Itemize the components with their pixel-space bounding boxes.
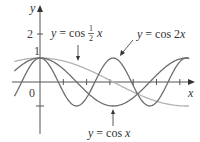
x-axis-label: x <box>187 86 194 100</box>
fraction-denominator: 2 <box>89 34 93 43</box>
annotation-cos-2x-text: y = cos 2x <box>136 27 186 41</box>
origin-label: 0 <box>29 86 35 100</box>
annotation-var-x: x <box>96 26 103 40</box>
annotation-cos-x-text: y = cos x <box>87 126 131 140</box>
axes <box>12 5 195 134</box>
fraction-numerator: 1 <box>89 24 93 33</box>
annotation-cos-x: y = cos x <box>87 109 131 140</box>
x-axis-arrow-icon <box>188 79 195 85</box>
y-axis-arrow-icon <box>37 5 43 12</box>
arrow-head-icon <box>111 109 115 114</box>
annotation-cos-half-x: y = cos 1 2 x <box>50 24 103 61</box>
y-tick-label-1: 1 <box>34 44 40 58</box>
cosine-chart: y x 0 2 1 y = cos 1 2 x y = cos 2x y = c… <box>0 0 200 142</box>
y-axis-label: y <box>29 1 36 15</box>
annotation-cos-2x: y = cos 2x <box>120 27 186 56</box>
arrow-head-icon <box>76 56 80 61</box>
arrow-line <box>123 40 133 52</box>
annotation-cos-half-x-text: y = cos <box>50 26 85 40</box>
y-tick-label-2: 2 <box>27 27 33 41</box>
